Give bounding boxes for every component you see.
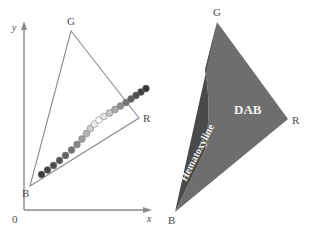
stain-trajectory-dot — [143, 85, 150, 92]
stain-trajectory-dot — [74, 141, 81, 148]
stain-trajectory-dot — [68, 147, 75, 154]
dab-region-shape — [175, 22, 288, 212]
left-vertex-label-g: G — [67, 15, 75, 27]
stain-trajectory-dot — [79, 136, 86, 143]
dab-region-label: DAB — [234, 102, 262, 117]
right-panel: G R B DAB Hematoxyline — [168, 6, 300, 226]
stain-trajectory-dot — [62, 152, 69, 159]
stain-trajectory-dots — [38, 85, 149, 178]
origin-label: 0 — [12, 213, 18, 225]
x-axis-label: x — [146, 213, 152, 224]
stain-trajectory-dot — [44, 167, 51, 174]
y-axis-arrowhead — [21, 21, 27, 30]
figure-svg: y x 0 G R B G R B DAB Hematoxyline — [0, 0, 317, 233]
left-vertex-label-b: B — [22, 187, 29, 199]
y-axis — [21, 21, 27, 210]
right-vertex-label-b: B — [168, 214, 175, 226]
x-axis — [24, 207, 152, 213]
right-vertex-label-g: G — [213, 6, 221, 18]
left-panel: y x 0 G R B — [11, 15, 152, 225]
figure-container: y x 0 G R B G R B DAB Hematoxyline — [0, 0, 317, 233]
y-axis-label: y — [11, 22, 17, 33]
stain-trajectory-dot — [50, 162, 57, 169]
right-vertex-label-r: R — [292, 114, 300, 126]
left-vertex-label-r: R — [143, 112, 151, 124]
stain-trajectory-dot — [56, 157, 63, 164]
stain-trajectory-dot — [38, 171, 45, 178]
